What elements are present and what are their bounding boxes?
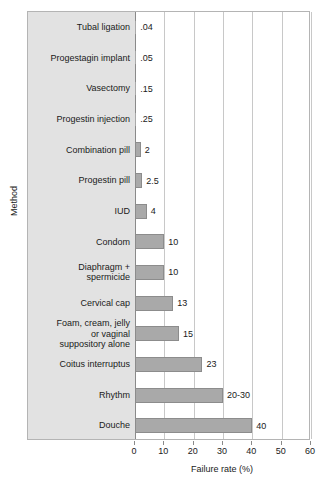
bar <box>135 357 202 372</box>
bar-row: Coitus interruptus23 <box>28 349 311 380</box>
bar-row: Rhythm20-30 <box>28 380 311 411</box>
bar-row: Vasectomy.15 <box>28 73 311 104</box>
bar <box>135 81 136 96</box>
bar-value-label: .15 <box>140 84 153 94</box>
category-label: Coitus interruptus <box>28 359 130 370</box>
bar-value-label: 2.5 <box>146 176 159 186</box>
bar-value-label: 10 <box>168 237 178 247</box>
x-tick-20 <box>193 441 194 445</box>
bar <box>135 204 147 219</box>
x-tick-label: 50 <box>266 446 296 456</box>
bar-row: Tubal ligation.04 <box>28 12 311 43</box>
bar-value-label: 4 <box>151 206 156 216</box>
bar-row: Progestin injection.25 <box>28 104 311 135</box>
bar-value-label: 20-30 <box>227 390 250 400</box>
category-label: Condom <box>28 237 130 248</box>
category-label: Combination pill <box>28 145 130 156</box>
category-label: Foam, cream, jellyor vaginalsuppository … <box>28 318 130 350</box>
bar <box>135 142 141 157</box>
bar <box>135 388 223 403</box>
x-tick-10 <box>163 441 164 445</box>
category-label: Diaphragm +spermicide <box>28 262 130 283</box>
x-axis-title: Failure rate (%) <box>134 464 310 474</box>
bar <box>135 296 173 311</box>
bar-value-label: .05 <box>140 53 153 63</box>
x-tick-50 <box>281 441 282 445</box>
bar <box>135 20 136 35</box>
bar-row: Douche40 <box>28 410 311 441</box>
bar <box>135 173 142 188</box>
bar-value-label: 15 <box>183 329 193 339</box>
category-label: Rhythm <box>28 390 130 401</box>
bar-row: Progestin pill2.5 <box>28 165 311 196</box>
x-tick-label: 60 <box>295 446 325 456</box>
category-label: Tubal ligation <box>28 22 130 33</box>
y-axis-title: Method <box>9 171 19 231</box>
x-tick-0 <box>134 441 135 445</box>
x-tick-label: 40 <box>236 446 266 456</box>
x-tick-label: 20 <box>178 446 208 456</box>
x-tick-label: 30 <box>207 446 237 456</box>
category-label: IUD <box>28 206 130 217</box>
category-label: Douche <box>28 420 130 431</box>
bar-row: Combination pill2 <box>28 135 311 166</box>
category-label: Cervical cap <box>28 298 130 309</box>
bar-row: Diaphragm +spermicide10 <box>28 257 311 288</box>
bar-value-label: 2 <box>145 145 150 155</box>
bar-row: Foam, cream, jellyor vaginalsuppository … <box>28 318 311 349</box>
plot-frame: Tubal ligation.04Progestagin implant.05V… <box>27 11 310 440</box>
bar <box>135 50 136 65</box>
category-label: Progestin pill <box>28 175 130 186</box>
bar <box>135 265 164 280</box>
x-tick-60 <box>310 441 311 445</box>
category-label: Progestin injection <box>28 114 130 125</box>
gridline-60 <box>311 12 312 439</box>
bar-value-label: .04 <box>140 22 153 32</box>
failure-rate-bar-chart: Method Tubal ligation.04Progestagin impl… <box>0 0 326 485</box>
bar-row: Cervical cap13 <box>28 288 311 319</box>
bar-row: Progestagin implant.05 <box>28 43 311 74</box>
bar-value-label: 40 <box>256 421 266 431</box>
bar-value-label: 23 <box>206 359 216 369</box>
bar-row: IUD4 <box>28 196 311 227</box>
bar <box>135 418 252 433</box>
x-tick-30 <box>222 441 223 445</box>
bar-value-label: 10 <box>168 267 178 277</box>
bar <box>135 234 164 249</box>
bar-value-label: 13 <box>177 298 187 308</box>
bar-row: Condom10 <box>28 227 311 258</box>
bar-value-label: .25 <box>140 114 153 124</box>
bar <box>135 112 136 127</box>
x-tick-40 <box>251 441 252 445</box>
x-tick-label: 10 <box>148 446 178 456</box>
x-tick-label: 0 <box>119 446 149 456</box>
bar <box>135 326 179 341</box>
x-axis: 0102030405060 <box>134 441 310 442</box>
category-label: Progestagin implant <box>28 53 130 64</box>
category-label: Vasectomy <box>28 83 130 94</box>
